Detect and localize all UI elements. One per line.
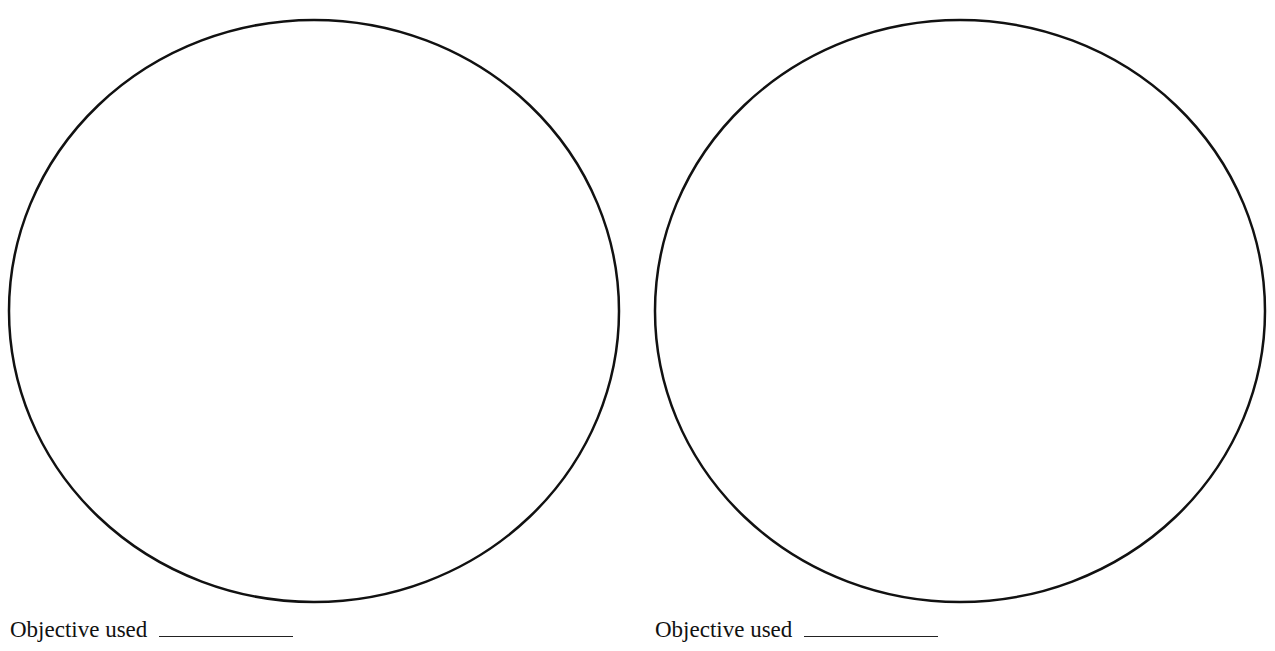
field-of-view-circle-right[interactable] <box>646 0 1275 612</box>
objective-used-blank-left[interactable] <box>159 614 293 637</box>
field-of-view-right: Objective used <box>646 0 1275 651</box>
objective-used-blank-right[interactable] <box>804 614 938 637</box>
objective-used-label: Objective used <box>10 615 147 645</box>
objective-used-right: Objective used <box>655 614 938 645</box>
field-of-view-left: Objective used <box>0 0 640 651</box>
objective-used-label: Objective used <box>655 615 792 645</box>
objective-used-left: Objective used <box>10 614 293 645</box>
field-of-view-circle-left[interactable] <box>0 0 640 612</box>
